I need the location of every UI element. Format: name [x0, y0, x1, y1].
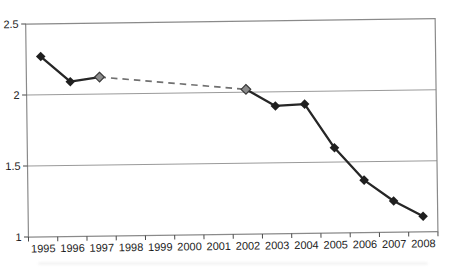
x-axis-label: 1997 [89, 241, 114, 253]
x-axis-label: 1996 [60, 242, 85, 254]
x-axis-label: 2000 [177, 240, 202, 252]
x-axis-label: 2001 [206, 240, 231, 252]
x-axis-label: 1999 [148, 241, 173, 253]
scan-artifact [38, 262, 428, 265]
y-axis-label: 1.5 [5, 160, 20, 172]
x-axis-label: 2004 [294, 239, 319, 251]
x-axis-label: 2006 [353, 238, 378, 250]
line-chart: 11.522.519951996199719981999200020012002… [0, 0, 453, 270]
x-axis-label: 1995 [31, 242, 56, 254]
x-axis-label: 1998 [119, 241, 144, 253]
data-point [418, 211, 428, 221]
chart-canvas: 11.522.519951996199719981999200020012002… [0, 0, 453, 270]
gridline [27, 90, 436, 95]
x-axis-label: 2007 [382, 238, 407, 250]
x-axis-label: 2005 [323, 238, 348, 250]
plot-border [26, 19, 438, 237]
y-axis-label: 2.5 [3, 18, 18, 30]
x-axis-label: 2002 [236, 239, 261, 251]
y-axis-label: 2 [13, 89, 19, 101]
x-axis-label: 2003 [265, 239, 290, 251]
data-point-gray [241, 84, 251, 94]
gridline [28, 161, 437, 166]
gap-dashed-line [99, 75, 245, 91]
data-point-gray [95, 72, 105, 82]
x-axis-label: 2008 [411, 237, 436, 249]
data-point [271, 101, 281, 111]
y-axis-label: 1 [15, 231, 21, 243]
figure: 11.522.519951996199719981999200020012002… [0, 0, 453, 270]
